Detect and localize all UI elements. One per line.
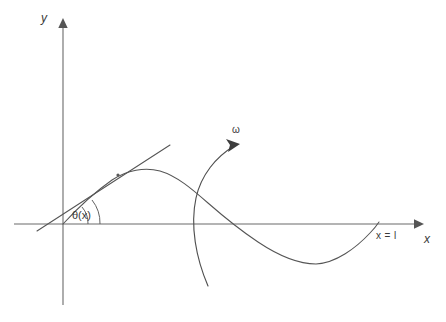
- math-diagram-figure: y x θ(x) ω x = l: [0, 0, 446, 322]
- x-equals-l-label: x = l: [376, 231, 397, 241]
- omega-arc: [194, 146, 234, 286]
- tangent-line: [37, 145, 170, 231]
- theta-angle-label: θ(x): [72, 210, 91, 221]
- x-axis-arrowhead: [414, 219, 424, 229]
- diagram-canvas: [0, 0, 446, 322]
- x-axis-label: x: [424, 233, 430, 245]
- omega-label: ω: [232, 125, 240, 135]
- y-axis-arrowhead: [58, 18, 67, 28]
- tangent-point-marker: [116, 173, 119, 176]
- angle-arc-outer: [92, 200, 100, 224]
- y-axis-label: y: [41, 12, 47, 24]
- y-axis: [58, 18, 67, 305]
